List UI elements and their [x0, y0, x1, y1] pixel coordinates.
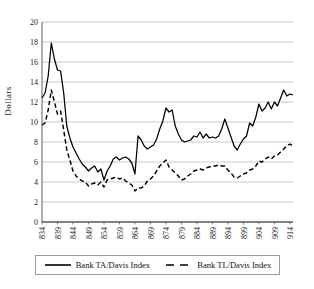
y-tick-label: 0 [34, 218, 38, 227]
legend-label-tl: Bank TL/Davis Index [197, 260, 271, 270]
y-tick-label: 4 [34, 178, 38, 187]
x-tick-label: 1879 [178, 227, 187, 240]
x-tick-label: 1839 [54, 227, 63, 240]
x-tick-label: 1914 [286, 227, 295, 240]
y-tick-label: 8 [34, 138, 38, 147]
gridlines-group [42, 22, 293, 222]
line-chart-svg: 02468101214161820 1834183918441849185418… [0, 0, 314, 240]
x-tick-label: 1874 [162, 227, 171, 240]
data-series-group [42, 43, 293, 191]
chart-plot-area: 02468101214161820 1834183918441849185418… [0, 0, 314, 240]
legend-label-ta: Bank TA/Davis Index [76, 260, 150, 270]
x-tick-label: 1894 [224, 227, 233, 240]
legend-item-ta: Bank TA/Davis Index [44, 260, 150, 270]
x-tick-label: 1884 [193, 227, 202, 240]
x-tick-label: 1889 [209, 227, 218, 240]
y-tick-label: 16 [30, 58, 38, 67]
x-tick-label: 1834 [38, 227, 47, 240]
legend-swatch-solid-icon [44, 261, 72, 269]
x-tick-label: 1859 [116, 227, 125, 240]
x-tick-label: 1904 [255, 227, 264, 240]
legend-swatch-dashed-icon [165, 261, 193, 269]
x-tick-label: 1844 [69, 227, 78, 240]
chart-legend: Bank TA/Davis Index Bank TL/Davis Index [35, 255, 280, 275]
y-tick-label: 18 [30, 38, 38, 47]
y-tick-label: 12 [30, 98, 38, 107]
x-tick-label: 1899 [240, 227, 249, 240]
x-tick-labels-group: 1834183918441849185418591864186918741879… [38, 227, 295, 240]
y-tick-label: 2 [34, 198, 38, 207]
y-tick-label: 14 [30, 78, 38, 87]
series-line-bank-tl [42, 90, 293, 191]
y-tick-label: 20 [30, 18, 38, 27]
y-tick-label: 6 [34, 158, 38, 167]
chart-figure: Dollars 02468101214161820 18341839184418… [0, 0, 314, 289]
x-tick-label: 1909 [271, 227, 280, 240]
x-tick-label: 1854 [100, 227, 109, 240]
x-tick-label: 1869 [147, 227, 156, 240]
y-tick-labels-group: 02468101214161820 [30, 18, 38, 227]
series-line-bank-ta [42, 43, 293, 180]
x-tick-label: 1864 [131, 227, 140, 240]
y-tick-label: 10 [30, 118, 38, 127]
x-tick-label: 1849 [85, 227, 94, 240]
legend-item-tl: Bank TL/Davis Index [165, 260, 271, 270]
